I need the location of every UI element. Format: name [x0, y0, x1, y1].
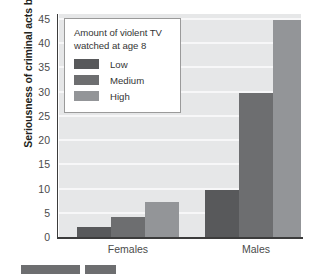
legend-swatch [74, 75, 99, 85]
legend-title-line-2: watched at age 8 [74, 40, 146, 51]
legend-item: Medium [74, 73, 172, 87]
x-axis-tick-label: Males [205, 243, 307, 255]
y-axis-tick-label: 45 [30, 14, 50, 25]
bar [145, 202, 179, 237]
legend-swatch [74, 91, 99, 101]
bar [273, 20, 301, 237]
bottom-cropped-strip [0, 262, 316, 274]
y-axis-tick-label: 40 [30, 38, 50, 49]
bar [239, 93, 273, 237]
bar [205, 190, 239, 237]
y-axis-tick-label: 35 [30, 62, 50, 73]
y-axis-tick-labels: 051015202530354045 [30, 13, 50, 238]
legend: Amount of violent TV watched at age 8 Lo… [64, 18, 181, 113]
legend-title: Amount of violent TV watched at age 8 [74, 27, 172, 52]
legend-item: High [74, 89, 172, 103]
y-axis-tick-label: 15 [30, 159, 50, 170]
legend-item-label: High [110, 91, 130, 102]
y-axis-tick-label: 20 [30, 135, 50, 146]
legend-item-label: Low [110, 59, 128, 70]
y-axis-tick-label: 10 [30, 183, 50, 194]
y-axis-tick-label: 0 [30, 232, 50, 243]
x-axis-line [57, 237, 303, 239]
legend-swatch [74, 59, 99, 69]
cropped-chip [21, 265, 80, 274]
y-axis-tick-label: 5 [30, 208, 50, 219]
cropped-chip [85, 265, 116, 274]
y-axis-line [57, 14, 58, 238]
legend-items: LowMediumHigh [74, 57, 172, 103]
x-axis-tick-label: Females [77, 243, 179, 255]
legend-title-line-1: Amount of violent TV [74, 27, 162, 38]
legend-item: Low [74, 57, 172, 71]
legend-item-label: Medium [110, 75, 144, 86]
bar [77, 227, 111, 237]
bar-chart-figure: Seriousness of criminal acts by age 30 0… [0, 0, 316, 274]
bar [111, 217, 145, 237]
y-axis-tick-label: 30 [30, 86, 50, 97]
y-axis-tick-label: 25 [30, 111, 50, 122]
